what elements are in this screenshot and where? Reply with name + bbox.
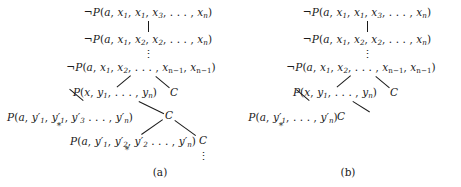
panel-a-root-clause: ¬P(a, x1, x1, x3, . . . , xn) [84, 7, 212, 19]
panel-a-clause-p-x-y: P(x, y1, . . . , yn) [73, 87, 157, 99]
edge-pxy-to-c2-b [352, 101, 369, 112]
panel-b-clause-c-2: C [337, 111, 345, 122]
panel-b-asterisk-1: * [279, 122, 284, 131]
panel-b-clause-level-2: ¬P(a, x1, x2, x2, . . . , xn) [303, 34, 431, 46]
edge-root-to-level2-b [367, 21, 368, 32]
panel-a-clause-c-1: C [170, 87, 178, 98]
panel-a-clause-p-a-yprime-1: P(a, y′1, y′1, y′3 . . . , y′n) [7, 112, 133, 124]
panel-b-root-clause: ¬P(a, x1, x1, x3, . . . , xn) [303, 7, 431, 19]
panel-a-vertical-dots: ⋮ [143, 49, 154, 60]
edge-c2-to-payprime2 [141, 119, 163, 135]
panel-b-clause-c-1: C [390, 87, 398, 98]
resolution-tree-figure: ¬P(a, x1, x1, x3, . . . , xn) ¬P(a, x1, … [0, 0, 461, 187]
panel-a-caption: (a) [153, 167, 167, 178]
panel-a-clause-level-2: ¬P(a, x1, x2, x2, . . . , xn) [84, 34, 212, 46]
panel-b-clause-p-a-yprime-1: P(a, y′1, . . . , y′n) [248, 112, 337, 124]
edge-root-to-level2 [148, 21, 149, 32]
panel-a-clause-c-2: C [165, 110, 173, 121]
edge-level3-to-c1-b [375, 76, 389, 88]
panel-a-clause-level-3: ¬P(a, x1, x2, . . . , xn−1, xn−1) [66, 62, 215, 74]
panel-a-clause-c-3: C [199, 135, 207, 146]
panel-a-asterisk-1: * [57, 122, 62, 131]
edge-level3-to-c1 [155, 76, 169, 88]
edge-c2-to-c3 [174, 120, 196, 136]
panel-b-caption: (b) [341, 167, 356, 178]
edge-pxy-to-c2 [139, 101, 165, 114]
panel-a: ¬P(a, x1, x1, x3, . . . , xn) ¬P(a, x1, … [0, 0, 230, 187]
panel-a-vertical-dots-2: ⋮ [198, 151, 209, 162]
panel-a-asterisk-2: * [125, 146, 130, 155]
panel-b-clause-level-3: ¬P(a, x1, x2, . . . , xn−1, xn−1) [286, 62, 435, 74]
panel-b-vertical-dots: ⋮ [362, 49, 373, 60]
panel-b: ¬P(a, x1, x1, x3, . . . , xn) ¬P(a, x1, … [231, 0, 461, 187]
panel-a-clause-p-a-yprime-2: P(a, y′1, y′2, y′2 . . . , y′n) [70, 136, 196, 148]
